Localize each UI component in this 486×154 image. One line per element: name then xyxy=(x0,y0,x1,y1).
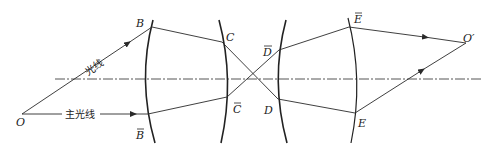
optical-diagram: 光线 主光线 O O′ B B C C D D E E xyxy=(0,0,486,154)
lens-surface-3 xyxy=(278,20,287,143)
point-C-label: C xyxy=(226,31,235,44)
lens-surface-1 xyxy=(145,20,155,143)
diagram-canvas: 光线 主光线 O O′ B B C C D D E E xyxy=(0,0,486,154)
lens-surface-4 xyxy=(348,18,357,143)
point-C-bar-label: C xyxy=(233,103,242,116)
point-E-bar-label: E xyxy=(353,13,362,26)
point-D-label: D xyxy=(263,104,273,117)
ray-label: 光线 xyxy=(82,57,105,78)
point-D-bar-label: D xyxy=(262,46,272,59)
point-O-prime-label: O′ xyxy=(463,32,475,45)
point-B-bar-label: B xyxy=(135,129,144,142)
chief-ray-label: 主光线 xyxy=(65,108,95,120)
point-E-label: E xyxy=(357,117,366,130)
point-B-label: B xyxy=(135,17,144,30)
point-O-label: O xyxy=(16,116,25,129)
